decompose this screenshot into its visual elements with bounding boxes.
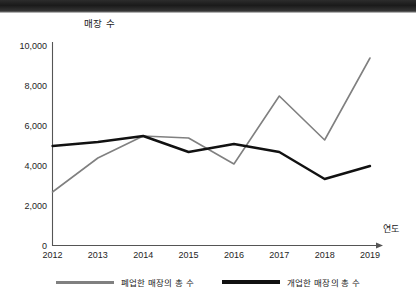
data-series-layer xyxy=(53,58,371,192)
legend-item[interactable]: 개업한 매장의 총 수 xyxy=(222,276,360,288)
series-line xyxy=(53,58,371,192)
legend-label: 개업한 매장의 총 수 xyxy=(287,276,360,288)
line-chart-figure: 매장 수 연도 02,0004,0006,0008,00010,000 2012… xyxy=(0,0,416,305)
legend-swatch-icon xyxy=(222,280,280,284)
plot-area xyxy=(0,0,416,305)
x-axis-arrow-icon xyxy=(376,243,383,249)
legend-item[interactable]: 폐업한 매장의 총 수 xyxy=(56,276,194,288)
chart-legend: 폐업한 매장의 총 수개업한 매장의 총 수 xyxy=(0,276,416,288)
legend-label: 폐업한 매장의 총 수 xyxy=(121,276,194,288)
legend-swatch-icon xyxy=(56,281,114,284)
axis-lines xyxy=(53,42,384,249)
